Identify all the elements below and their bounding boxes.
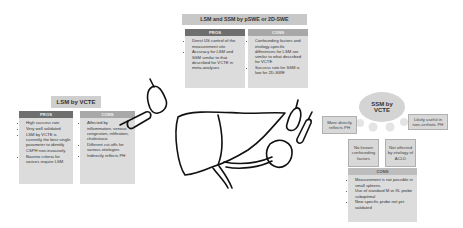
vcte-probe-icon bbox=[297, 112, 312, 143]
liver-spleen-illustration bbox=[0, 0, 463, 228]
probe-icon bbox=[287, 108, 301, 131]
spleen-icon bbox=[267, 140, 293, 167]
elastography-diagram: LSM and SSM by pSWE or 2D-SWE PROS Direc… bbox=[0, 0, 463, 228]
probe-icon bbox=[148, 86, 167, 113]
liver-icon bbox=[176, 112, 285, 175]
vcte-probe-icon bbox=[120, 112, 151, 129]
